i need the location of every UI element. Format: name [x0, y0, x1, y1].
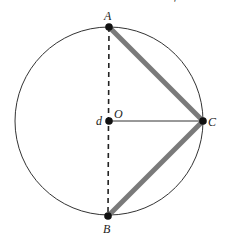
chord-ac — [109, 27, 203, 121]
label-b: B — [103, 222, 111, 236]
point-c — [199, 117, 207, 125]
label-c: C — [208, 115, 217, 129]
chord-cb — [108, 121, 203, 216]
label-o: O — [114, 107, 123, 121]
top-fragment: ' — [173, 0, 176, 10]
point-a — [105, 23, 113, 31]
label-d: d — [96, 114, 103, 128]
circle-diagram: ' A O d C B — [0, 0, 229, 249]
label-a: A — [103, 9, 112, 23]
point-o — [105, 117, 113, 125]
point-b — [104, 212, 112, 220]
